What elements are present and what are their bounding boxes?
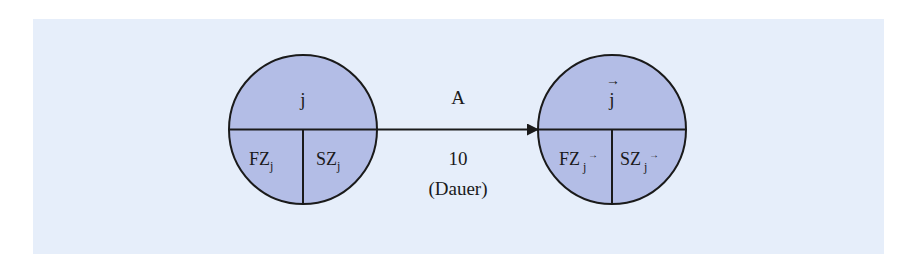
end-node-label: j <box>608 89 614 110</box>
activity-label: A <box>451 87 465 108</box>
activity-edge: A 10 (Dauer) <box>377 87 538 200</box>
end-node-fz-arrow-icon: → <box>588 149 598 160</box>
duration-caption: (Dauer) <box>428 178 487 200</box>
end-node: → j FZj → SZj → <box>538 55 686 204</box>
duration-value: 10 <box>449 148 468 169</box>
end-node-arrow-marker-icon: → <box>606 73 620 88</box>
start-node-label: j <box>299 89 305 110</box>
start-node: j FZj SZj <box>229 55 377 204</box>
network-diagram: j FZj SZj A 10 (Dauer) → j FZj → SZj → <box>0 0 916 268</box>
end-node-sz-arrow-icon: → <box>649 149 659 160</box>
